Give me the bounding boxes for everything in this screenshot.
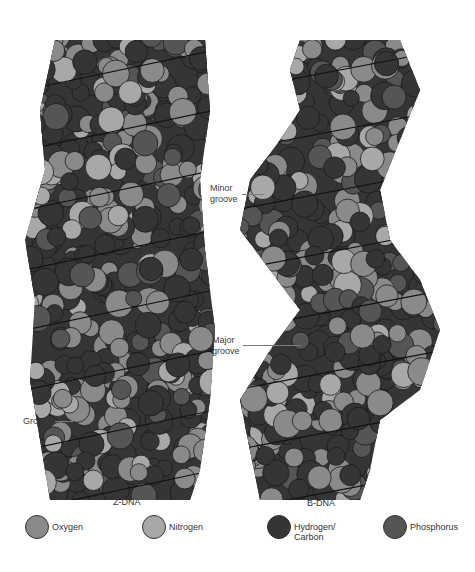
legend-phosphorus: Phosphorus [383, 515, 458, 539]
z-dna-caption: Z-DNA [113, 497, 141, 507]
oxygen-swatch-icon [25, 515, 49, 539]
minor-groove-leader [242, 194, 264, 195]
legend-nitrogen: Nitrogen [142, 515, 203, 539]
groove-leader [55, 421, 73, 422]
minor-groove-label: Minor groove [210, 183, 238, 205]
major-groove-leader [243, 345, 301, 346]
hydrogen-carbon-swatch-icon [267, 515, 291, 539]
legend-oxygen: Oxygen [25, 515, 83, 539]
phosphorus-swatch-icon [383, 515, 407, 539]
b-dna-caption: B-DNA [307, 498, 335, 508]
z-dna-model [0, 0, 475, 500]
nitrogen-swatch-icon [142, 515, 166, 539]
major-groove-label: Major groove [212, 335, 240, 357]
legend-hydrogen-carbon: Hydrogen/ Carbon [267, 515, 336, 542]
groove-label: Groove [23, 416, 53, 427]
